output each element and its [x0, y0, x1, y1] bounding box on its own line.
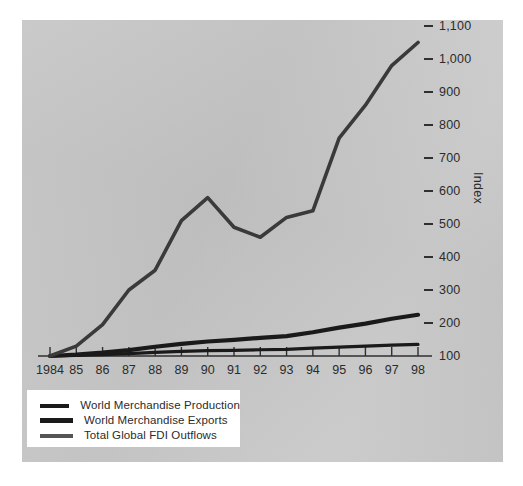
chart-legend: World Merchandise ProductionWorld Mercha… [27, 390, 240, 447]
legend-label: World Merchandise Exports [84, 415, 228, 427]
legend-label: Total Global FDI Outflows [84, 430, 217, 442]
series-layer [50, 43, 418, 357]
chart-page: 1,1001,000900800700600500400300200100 19… [0, 0, 523, 486]
legend-label: World Merchandise Production [80, 400, 240, 412]
legend-item: Total Global FDI Outflows [27, 427, 240, 444]
y-axis-title: Index [471, 172, 485, 204]
legend-color-swatch [40, 434, 73, 438]
legend-color-swatch [40, 418, 73, 423]
series-line [50, 43, 418, 357]
legend-color-swatch [40, 404, 69, 408]
